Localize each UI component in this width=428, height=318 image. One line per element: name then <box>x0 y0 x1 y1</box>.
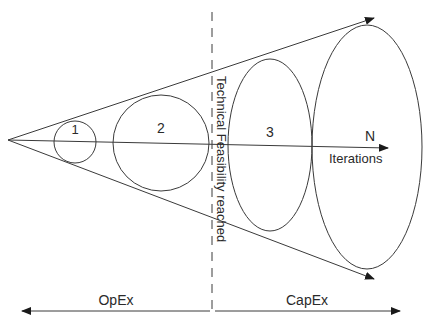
iterations-axis-label: Iterations <box>329 151 383 166</box>
capex-label: CapEx <box>286 292 328 308</box>
iteration-1-label: 1 <box>71 122 78 137</box>
iteration-3-label: 3 <box>266 124 274 140</box>
opex-label: OpEx <box>98 292 133 308</box>
cone-of-iterations-diagram: 1 2 3 N Iterations Technical Feasibility… <box>0 0 428 318</box>
iteration-2-label: 2 <box>157 120 165 136</box>
iterations-axis-arrow <box>8 140 388 148</box>
iteration-n-label: N <box>365 128 375 144</box>
cone-upper-edge-arrow <box>8 18 374 140</box>
technical-feasibility-label: Technical Feasibility reached <box>214 76 229 242</box>
